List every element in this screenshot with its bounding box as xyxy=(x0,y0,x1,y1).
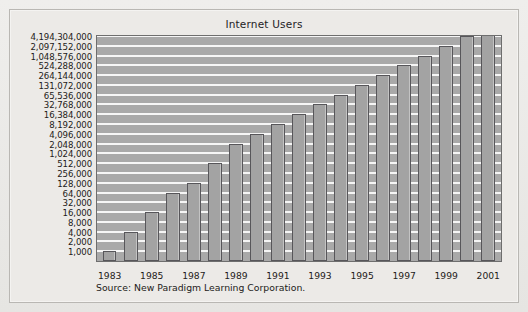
x-tick-slot: 1985 xyxy=(140,264,163,278)
plot-area xyxy=(96,35,502,262)
bar[interactable] xyxy=(124,232,138,261)
bar-slot xyxy=(352,36,373,261)
bar[interactable] xyxy=(187,183,201,261)
bar[interactable] xyxy=(313,104,327,261)
x-tick-slot: 1999 xyxy=(435,264,458,278)
y-axis-label: 4,194,304,000 xyxy=(30,33,92,42)
bar[interactable] xyxy=(145,212,159,261)
y-axis-label: 32,000 xyxy=(63,199,92,208)
bar[interactable] xyxy=(481,35,495,261)
x-tick-slot: 2001 xyxy=(477,264,500,278)
x-tick-slot: . xyxy=(416,264,435,278)
bar[interactable] xyxy=(439,46,453,261)
y-axis-label: 512,000 xyxy=(57,160,92,169)
y-axis-label: 264,144,000 xyxy=(38,72,92,81)
bar[interactable] xyxy=(334,95,348,261)
screenshot-root: Internet Users 4,194,304,0002,097,152,00… xyxy=(0,0,528,312)
chart-figure: Internet Users 4,194,304,0002,097,152,00… xyxy=(10,10,518,302)
y-axis-label: 32,768,000 xyxy=(44,101,92,110)
bar-slot xyxy=(288,36,309,261)
y-axis-label: 2,048,000 xyxy=(49,140,92,149)
y-axis-label: 2,097,152,000 xyxy=(30,42,92,51)
chart-title: Internet Users xyxy=(10,18,518,30)
x-axis-label: 1987 xyxy=(182,270,205,281)
y-axis-label: 2,000 xyxy=(68,238,92,247)
plot-area-wrapper xyxy=(96,35,502,262)
source-note: Source: New Paradigm Learning Corporatio… xyxy=(96,282,502,293)
y-axis-label: 1,024,000 xyxy=(49,150,92,159)
y-axis-label: 128,000 xyxy=(57,179,92,188)
bar-slot xyxy=(415,36,436,261)
bar-slot xyxy=(436,36,457,261)
y-axis-label: 16,384,000 xyxy=(44,111,92,120)
y-axis-label: 65,536,000 xyxy=(44,91,92,100)
bar-slot xyxy=(478,36,499,261)
bar[interactable] xyxy=(418,56,432,261)
x-axis: 1983.1985.1987.1989.1991.1993.1995.1997.… xyxy=(96,264,502,278)
y-axis-label: 64,000 xyxy=(63,189,92,198)
x-axis-label: 1999 xyxy=(435,270,458,281)
y-axis-label: 1,048,576,000 xyxy=(30,52,92,61)
bar-slot xyxy=(373,36,394,261)
bar-slot xyxy=(120,36,141,261)
x-tick-slot: 1993 xyxy=(308,264,331,278)
bar-slot xyxy=(331,36,352,261)
x-axis-label: 2001 xyxy=(477,270,500,281)
y-axis-label: 1,000 xyxy=(68,248,92,257)
bar-slot xyxy=(99,36,120,261)
x-tick-slot: . xyxy=(163,264,182,278)
x-axis-label: 1989 xyxy=(224,270,247,281)
x-tick-slot: . xyxy=(121,264,140,278)
bar[interactable] xyxy=(292,114,306,261)
x-tick-slot: . xyxy=(290,264,309,278)
x-axis-label: 1997 xyxy=(392,270,415,281)
bar[interactable] xyxy=(250,134,264,261)
x-tick-slot: 1995 xyxy=(350,264,373,278)
bar[interactable] xyxy=(229,144,243,261)
bar-slot xyxy=(457,36,478,261)
x-tick-slot: 1989 xyxy=(224,264,247,278)
bar[interactable] xyxy=(355,85,369,261)
y-axis-label: 4,096,000 xyxy=(49,130,92,139)
y-axis-label: 524,288,000 xyxy=(38,62,92,71)
x-tick-slot: 1991 xyxy=(266,264,289,278)
x-tick-slot: . xyxy=(248,264,267,278)
bar[interactable] xyxy=(208,163,222,261)
x-axis-label: 1985 xyxy=(140,270,163,281)
bar[interactable] xyxy=(397,65,411,261)
x-tick-slot: . xyxy=(374,264,393,278)
bar-slot xyxy=(162,36,183,261)
x-axis-label: 1983 xyxy=(98,270,121,281)
y-axis-label: 4,000 xyxy=(68,228,92,237)
x-tick-slot: . xyxy=(458,264,477,278)
bar-slot xyxy=(267,36,288,261)
x-tick-slot: . xyxy=(332,264,351,278)
y-axis: 4,194,304,0002,097,152,0001,048,576,0005… xyxy=(10,35,94,262)
bar-series xyxy=(97,36,501,261)
x-tick-slot: 1997 xyxy=(392,264,415,278)
bar[interactable] xyxy=(460,36,474,261)
y-axis-label: 16,000 xyxy=(63,209,92,218)
bar[interactable] xyxy=(103,251,117,261)
bar-slot xyxy=(246,36,267,261)
bar-slot xyxy=(309,36,330,261)
bar-slot xyxy=(141,36,162,261)
y-axis-label: 256,000 xyxy=(57,169,92,178)
y-axis-label: 8,000 xyxy=(68,218,92,227)
x-tick-slot: 1983 xyxy=(98,264,121,278)
x-axis-label: 1993 xyxy=(308,270,331,281)
x-tick-slot: . xyxy=(206,264,225,278)
x-axis-label: 1995 xyxy=(350,270,373,281)
bar[interactable] xyxy=(166,193,180,261)
bar-slot xyxy=(225,36,246,261)
chart-panel: Internet Users 4,194,304,0002,097,152,00… xyxy=(9,9,519,303)
x-axis-label: 1991 xyxy=(266,270,289,281)
bar-slot xyxy=(204,36,225,261)
bar[interactable] xyxy=(271,124,285,261)
bar-slot xyxy=(394,36,415,261)
bar[interactable] xyxy=(376,75,390,261)
y-axis-label: 8,192,000 xyxy=(49,121,92,130)
x-tick-slot: 1987 xyxy=(182,264,205,278)
y-axis-label: 131,072,000 xyxy=(38,81,92,90)
bar-slot xyxy=(183,36,204,261)
